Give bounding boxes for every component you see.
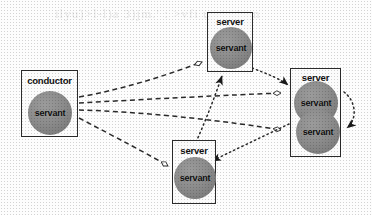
servant-circle-server-right-lower[interactable]: servant: [296, 110, 340, 154]
edge-conductor-to-server-bottom: [79, 118, 168, 166]
node-server-right[interactable]: server servant servant: [290, 68, 341, 157]
node-conductor[interactable]: conductor servant: [21, 70, 78, 137]
servant-circle-server-top[interactable]: servant: [210, 27, 252, 69]
servant-label: servant: [216, 43, 247, 53]
edge-server-top-to-server-right: [252, 68, 288, 85]
node-server-bottom-label: server: [173, 145, 215, 156]
servant-circle-conductor[interactable]: servant: [28, 91, 72, 135]
servant-label: servant: [301, 98, 332, 108]
edge-server-bottom-to-server-top: [196, 76, 222, 142]
servant-label: servant: [180, 173, 211, 183]
servant-label: servant: [303, 127, 334, 137]
servant-label: servant: [35, 108, 66, 118]
edge-conductor-to-server-right-upper: [79, 93, 281, 103]
servant-circle-server-bottom[interactable]: servant: [174, 157, 216, 199]
edge-server-right-to-server-bottom: [212, 124, 289, 161]
diagram-canvas: ilyu)>l-l)a 3)jm.' : >vfi uagn i nn cond…: [0, 0, 372, 215]
node-conductor-label: conductor: [22, 75, 77, 86]
edge-server-right-upper-to-lower-arc: [344, 92, 354, 128]
node-server-bottom[interactable]: server servant: [172, 140, 216, 204]
node-server-top[interactable]: server servant: [207, 12, 253, 72]
edge-conductor-to-server-top: [79, 62, 202, 97]
edge-conductor-to-server-right-lower: [79, 110, 281, 130]
scan-bleedthrough-text: ilyu)>l-l)a 3)jm.' : >vfi uagn i nn: [55, 6, 345, 40]
node-server-top-label: server: [208, 16, 252, 27]
